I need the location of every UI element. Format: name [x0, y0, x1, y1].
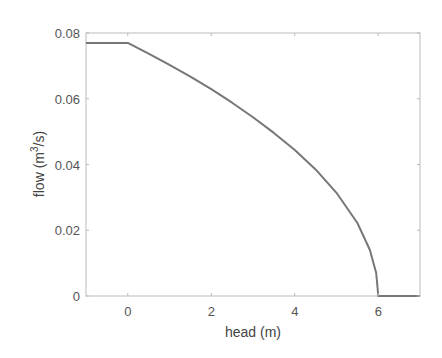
y-tick-label: 0.02 — [55, 223, 80, 238]
y-tick-label: 0.08 — [55, 26, 80, 41]
x-axis-ticks: 0246 — [124, 33, 382, 319]
y-axis-ticks: 00.020.040.060.08 — [55, 26, 420, 304]
plot-area — [86, 33, 420, 296]
x-tick-label: 6 — [375, 304, 382, 319]
x-tick-label: 2 — [208, 304, 215, 319]
axes-box — [86, 33, 420, 296]
x-axis-label: head (m) — [225, 324, 281, 340]
y-tick-label: 0 — [73, 289, 80, 304]
y-tick-label: 0.06 — [55, 92, 80, 107]
x-tick-label: 0 — [124, 304, 131, 319]
y-tick-label: 0.04 — [55, 158, 80, 173]
x-tick-label: 4 — [291, 304, 298, 319]
y-axis-label: flow (m3/s) — [29, 131, 47, 197]
series-line — [86, 43, 420, 296]
flow-head-chart: 0246 00.020.040.060.08 head (m) flow (m3… — [0, 0, 442, 358]
